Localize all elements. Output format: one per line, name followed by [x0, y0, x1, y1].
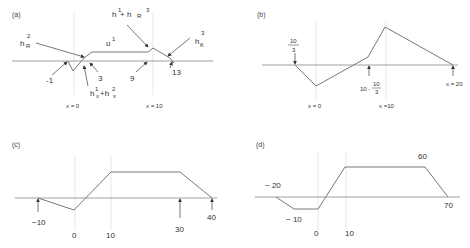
label-0: 0	[314, 229, 319, 238]
arrow-3	[90, 63, 98, 72]
label-h1hR3-sub: R	[137, 13, 142, 19]
label-h1hR3-sup2: 3	[146, 7, 150, 13]
curve-d	[276, 167, 448, 209]
panel-d: (d) − 20 − 10 0 10 60 70	[255, 141, 460, 238]
label-hK3: h	[195, 37, 199, 46]
curve-u1	[68, 48, 174, 71]
label-hsum-sup2: 2	[112, 86, 116, 92]
label-70: 70	[444, 201, 453, 210]
panel-a: (a) h R 2 u 1 h 1 + h R 3 h K 3 -1 3 9 1…	[12, 7, 213, 109]
panel-d-tag: (d)	[256, 141, 265, 149]
label-30: 30	[175, 225, 184, 234]
label-hsum-plus: +h	[100, 89, 109, 98]
arrow-hR2	[36, 43, 84, 57]
panel-a-tag: (a)	[12, 11, 21, 19]
label-hsum: h	[90, 89, 94, 98]
curve-b	[295, 27, 453, 86]
panel-c-tag: (c)	[12, 141, 20, 149]
label-m20: − 20	[265, 181, 281, 190]
label-hsum-sup1: 1	[95, 86, 99, 92]
label-hsum-sub2: x	[113, 93, 116, 99]
label-hR2: h	[20, 39, 24, 48]
label-9: 9	[130, 74, 135, 83]
arrow-9	[136, 62, 147, 72]
label-40: 40	[207, 213, 216, 222]
arrow-h1hR3	[127, 25, 148, 47]
label-m10: −10	[32, 218, 46, 227]
label-x10: x = 10	[146, 103, 163, 109]
panel-c: (c) −10 0 10 30 40	[12, 141, 217, 240]
label-hK3-sup: 3	[201, 30, 205, 36]
arrow-m1	[52, 62, 67, 75]
label-x0: x = 0	[308, 103, 322, 109]
label-x0: x = 0	[66, 103, 80, 109]
label-m10: − 10	[286, 215, 302, 224]
label-frac-den: 3	[292, 47, 296, 53]
label-u1-sup: 1	[112, 36, 116, 42]
diagram-canvas: (a) h R 2 u 1 h 1 + h R 3 h K 3 -1 3 9 1…	[0, 0, 470, 248]
label-3: 3	[98, 74, 103, 83]
label-10: 10	[106, 231, 115, 240]
label-u1: u	[106, 39, 110, 48]
label-h1hR3-plus: + h	[120, 10, 131, 19]
panel-b-tag: (b)	[257, 11, 266, 19]
panel-b: (b) 10 3 10 - 10 3 x = 0 x =10 x = 20	[257, 11, 463, 109]
label-x20: x = 20	[446, 81, 463, 87]
label-10: 10	[345, 229, 354, 238]
label-60: 60	[418, 152, 427, 161]
label-mid-prefix: 10 -	[360, 86, 370, 92]
label-hR2-sup: 2	[27, 33, 31, 39]
label-mid-num: 10	[373, 81, 380, 87]
label-h1hR3: h	[112, 10, 116, 19]
label-m1: -1	[46, 76, 54, 85]
label-hK3-sub: K	[200, 42, 204, 48]
label-hR2-sub: R	[26, 43, 31, 49]
label-mid-den: 3	[375, 89, 379, 95]
arrow-hsum	[84, 66, 88, 86]
label-13: 13	[172, 68, 181, 77]
arrow-hK3	[168, 38, 190, 56]
label-frac-num: 10	[290, 38, 297, 44]
curve-c	[38, 172, 212, 210]
label-hsum-sub1: x	[96, 93, 99, 99]
label-0: 0	[72, 231, 77, 240]
label-x10: x =10	[379, 103, 395, 109]
